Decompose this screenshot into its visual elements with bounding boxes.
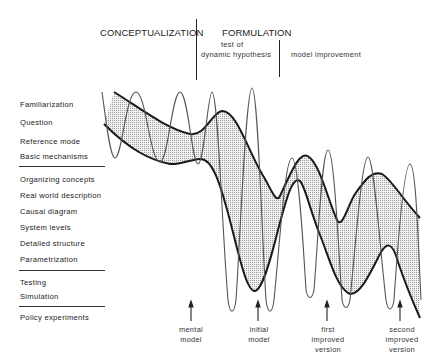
milestone-label-line: mental xyxy=(179,325,203,335)
milestone-first-improved-version: first improved version xyxy=(312,325,345,355)
milestone-label-line: first xyxy=(312,325,345,335)
milestone-label-line: improved xyxy=(312,335,345,345)
milestone-initial-model: initial model xyxy=(248,325,270,345)
milestone-mental-model: mental model xyxy=(179,325,203,345)
milestone-label-line: model xyxy=(179,335,203,345)
milestone-second-improved-version: second improved version xyxy=(386,325,419,355)
milestone-label-line: initial xyxy=(248,325,270,335)
milestone-label-line: version xyxy=(312,345,345,355)
milestone-label-line: second xyxy=(386,325,419,335)
milestone-label-line: improved xyxy=(386,335,419,345)
milestone-label-line: version xyxy=(386,345,419,355)
milestone-label-line: model xyxy=(248,335,270,345)
milestone-arrows xyxy=(0,0,439,362)
